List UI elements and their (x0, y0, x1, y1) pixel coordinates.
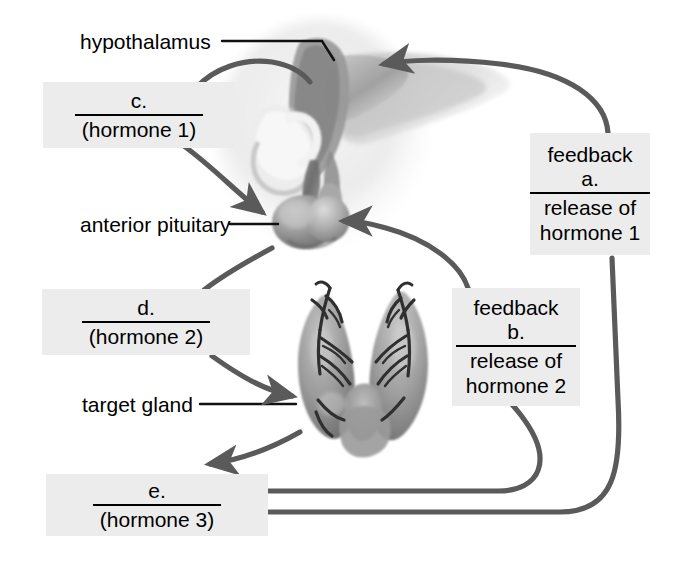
diagram-canvas: hypothalamus anterior pituitary target g… (0, 0, 680, 562)
answer-blank-d: d. (82, 296, 210, 323)
feedback-b-pre: feedback (473, 296, 558, 320)
answer-sub-e: (hormone 3) (100, 506, 214, 532)
feedback-a-line2: hormone 1 (540, 219, 640, 245)
feedback-box-b[interactable]: feedback b. release of hormone 2 (452, 288, 580, 406)
label-target-gland: target gland (82, 393, 193, 417)
answer-blank-e: e. (93, 479, 221, 506)
answer-box-d[interactable]: d. (hormone 2) (42, 289, 250, 355)
label-hypothalamus: hypothalamus (80, 30, 211, 54)
answer-box-c[interactable]: c. (hormone 1) (43, 82, 235, 148)
feedback-a-line1: release of (544, 194, 636, 220)
feedback-b-line1: release of (470, 347, 562, 373)
feedback-box-a[interactable]: feedback a. release of hormone 1 (530, 133, 650, 255)
feedback-blank-a: a. (530, 167, 650, 194)
answer-blank-c: c. (75, 89, 203, 116)
answer-sub-d: (hormone 2) (89, 323, 203, 349)
feedback-b-line2: hormone 2 (466, 372, 566, 398)
label-anterior-pituitary: anterior pituitary (80, 213, 231, 237)
answer-sub-c: (hormone 1) (82, 116, 196, 142)
answer-box-e[interactable]: e. (hormone 3) (46, 474, 268, 536)
feedback-a-pre: feedback (547, 143, 632, 167)
feedback-blank-b: b. (456, 320, 576, 347)
